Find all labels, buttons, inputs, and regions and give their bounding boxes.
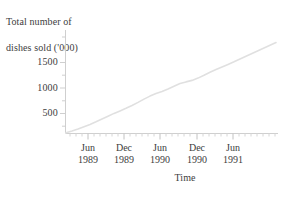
series-line-dishes-sold	[66, 43, 276, 133]
x-tick-label-jun-1991: Jun 1991	[210, 142, 256, 166]
x-axis-major-ticks	[88, 134, 233, 140]
line-chart: Total number of dishes sold ('000) 1500 …	[0, 0, 290, 200]
x-tick-year: 1991	[210, 154, 256, 166]
x-axis-title: Time	[155, 172, 215, 183]
x-tick-month: Jun	[210, 142, 256, 154]
chart-canvas	[0, 0, 290, 200]
y-axis-ticks	[60, 37, 66, 126]
